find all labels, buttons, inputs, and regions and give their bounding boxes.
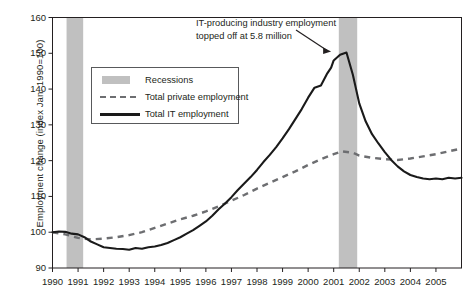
- y-tick-marks: [49, 18, 53, 269]
- legend-swatch-recessions-icon: [99, 74, 141, 86]
- legend-item-total-private-employment: Total private employment: [99, 90, 248, 104]
- y-tick-label-140: 140: [20, 83, 46, 94]
- y-tick-label-130: 130: [20, 119, 46, 130]
- legend-swatch-dashed-line-icon: [99, 91, 141, 103]
- y-tick-label-150: 150: [20, 47, 46, 58]
- chart-plot-svg: [0, 0, 475, 299]
- y-tick-label-100: 100: [20, 226, 46, 237]
- annotation-arrow-head: [323, 48, 331, 55]
- annotation-line-1: IT-producing industry employment: [196, 17, 336, 30]
- legend-label-total-it-employment: Total IT employment: [145, 109, 229, 119]
- y-tick-label-110: 110: [20, 190, 46, 201]
- legend-label-recessions: Recessions: [145, 75, 193, 85]
- y-axis-label: Employment change (index Jan. 1990=100): [34, 9, 45, 259]
- y-tick-label-160: 160: [20, 12, 46, 23]
- chart-legend: Recessions Total private employment Tota…: [91, 67, 239, 124]
- series-line-total-private-employment: [53, 148, 462, 239]
- chart-container: Employment change (index Jan. 1990=100) …: [0, 0, 475, 299]
- legend-item-total-it-employment: Total IT employment: [99, 107, 229, 121]
- y-tick-label-90: 90: [20, 262, 46, 273]
- recession-1990-1991: [67, 18, 84, 269]
- plot-frame: [53, 18, 462, 269]
- x-tick-marks: [53, 268, 436, 272]
- legend-swatch-solid-line-icon: [99, 108, 141, 120]
- legend-label-total-private-employment: Total private employment: [145, 92, 248, 102]
- x-tick-label-2005: 2005: [416, 276, 456, 287]
- annotation-text: IT-producing industry employment topped …: [196, 17, 336, 43]
- legend-item-recessions: Recessions: [99, 73, 193, 87]
- y-tick-label-120: 120: [20, 155, 46, 166]
- annotation-line-2: topped off at 5.8 million: [196, 30, 336, 43]
- recession-bands: [67, 18, 358, 269]
